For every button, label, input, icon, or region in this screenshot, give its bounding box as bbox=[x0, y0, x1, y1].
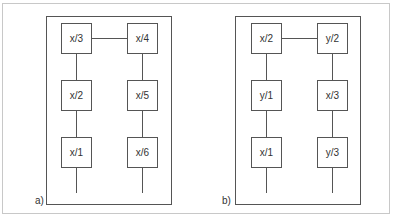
node: x/1 bbox=[61, 137, 92, 168]
connector bbox=[332, 54, 333, 80]
connector bbox=[266, 54, 267, 80]
connector bbox=[76, 54, 77, 80]
connector bbox=[332, 111, 333, 137]
node: x/2 bbox=[251, 23, 282, 54]
panel-label: a) bbox=[35, 195, 44, 206]
node: x/6 bbox=[127, 137, 158, 168]
connector bbox=[76, 111, 77, 137]
connector bbox=[332, 168, 333, 193]
connector bbox=[142, 111, 143, 137]
connector bbox=[142, 168, 143, 193]
node: x/5 bbox=[127, 80, 158, 111]
node: x/4 bbox=[127, 23, 158, 54]
node: y/3 bbox=[317, 137, 348, 168]
connector bbox=[92, 38, 127, 39]
node: x/3 bbox=[317, 80, 348, 111]
node: y/1 bbox=[251, 80, 282, 111]
connector bbox=[76, 168, 77, 193]
panel-label: b) bbox=[222, 195, 231, 206]
figure: x/3 x/4 x/2 x/5 x/1 x/6 a) x/2 y/2 y/1 x… bbox=[0, 0, 394, 218]
connector bbox=[142, 54, 143, 80]
connector bbox=[266, 111, 267, 137]
node: y/2 bbox=[317, 23, 348, 54]
node: x/1 bbox=[251, 137, 282, 168]
node: x/3 bbox=[61, 23, 92, 54]
node: x/2 bbox=[61, 80, 92, 111]
connector bbox=[266, 168, 267, 193]
connector bbox=[281, 38, 317, 39]
